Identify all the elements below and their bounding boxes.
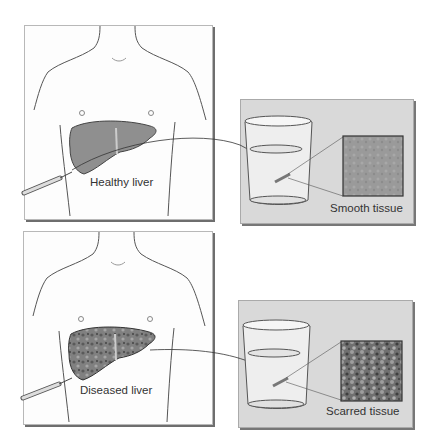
smooth-tissue-label: Smooth tissue (330, 202, 403, 214)
illustration-layer (0, 0, 435, 448)
healthy-liver-label: Healthy liver (90, 176, 153, 188)
tissue-sample-icon (341, 341, 402, 401)
diseased-liver-label: Diseased liver (80, 384, 152, 396)
specimen-jar-icon (245, 116, 312, 205)
liver-illustration (69, 327, 155, 380)
specimen-jar-icon (243, 320, 310, 409)
liver-illustration (70, 121, 156, 174)
tissue-sample-icon (343, 136, 403, 196)
biopsy-needle-icon (24, 172, 72, 193)
scarred-tissue-label: Scarred tissue (326, 405, 400, 417)
